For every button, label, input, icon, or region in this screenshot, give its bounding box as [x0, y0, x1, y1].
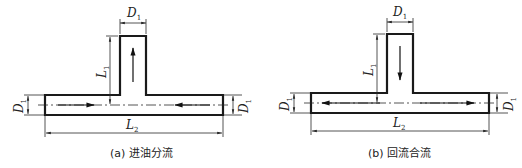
label-right-d1: D1 [237, 99, 253, 114]
label-right-d1: D1 [502, 97, 518, 112]
diagram-canvas: D1 L1 D1 D1 L2 D1 L [0, 0, 522, 168]
caption-b: (b) 回流合流 [368, 144, 431, 160]
figure-a-tee-split: D1 L1 D1 D1 L2 [12, 6, 253, 137]
label-l1: L1 [95, 66, 111, 79]
label-top-d1: D1 [392, 5, 407, 21]
tee-pipe-outline [45, 36, 223, 115]
label-left-d1: D1 [278, 97, 294, 112]
label-top-d1: D1 [126, 6, 141, 22]
label-l2: L2 [392, 116, 405, 132]
label-l2: L2 [125, 118, 138, 134]
caption-a: (a) 进油分流 [110, 144, 173, 160]
label-left-d1: D1 [12, 99, 28, 114]
label-l1: L1 [362, 64, 378, 77]
figure-b-tee-merge: D1 L1 D1 D1 L2 [278, 5, 518, 135]
